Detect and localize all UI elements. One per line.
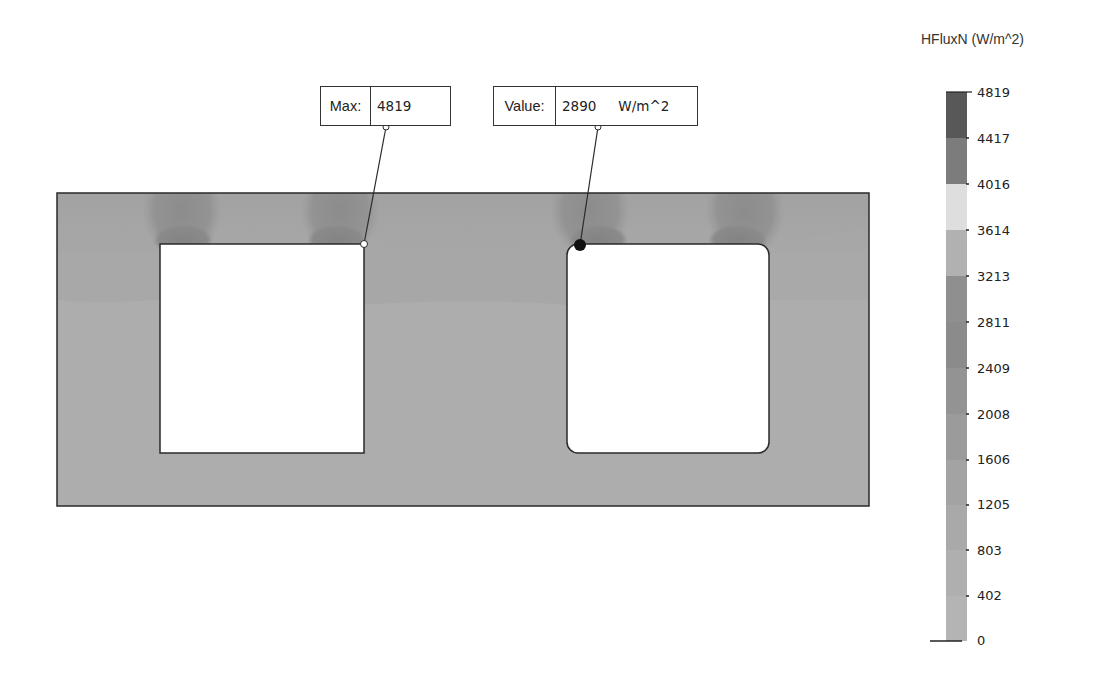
max-callout-value: 4819 (371, 98, 411, 114)
result-viewport[interactable]: Max: 4819 Value: 2890 W/m^2 HFluxN (W/m^… (0, 0, 1097, 680)
legend-tick-label: 4819 (977, 85, 1010, 100)
legend-tick-label: 803 (977, 543, 1002, 558)
legend-tick-label: 1205 (977, 497, 1010, 512)
left-cutout (160, 244, 364, 453)
probe-callout-label: Value: (494, 87, 556, 125)
legend-tick-label: 4417 (977, 131, 1010, 146)
max-callout-label: Max: (321, 87, 371, 125)
legend-tick-label: 402 (977, 588, 1002, 603)
legend-title: HFluxN (W/m^2) (921, 31, 1024, 47)
legend-tick-label: 1606 (977, 452, 1010, 467)
probe-callout-unit: W/m^2 (596, 98, 669, 114)
probe-callout[interactable]: Value: 2890 W/m^2 (493, 86, 698, 126)
colorbar (930, 92, 972, 641)
legend-tick-label: 4016 (977, 177, 1010, 192)
max-callout[interactable]: Max: 4819 (320, 86, 451, 126)
probe-point-marker[interactable] (574, 239, 586, 251)
legend-tick-label: 3213 (977, 269, 1010, 284)
max-point-marker[interactable] (361, 241, 368, 248)
legend-tick-label: 3614 (977, 223, 1010, 238)
legend-tick-label: 0 (977, 633, 985, 648)
legend-tick-label: 2008 (977, 407, 1010, 422)
legend-tick-label: 2811 (977, 315, 1010, 330)
legend-tick-label: 2409 (977, 361, 1010, 376)
right-cutout (567, 244, 769, 453)
probe-callout-value: 2890 (556, 98, 596, 114)
